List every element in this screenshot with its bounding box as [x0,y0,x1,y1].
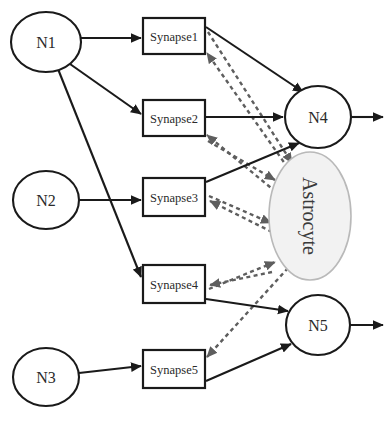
edge-n1-to-synapse4 [58,69,141,277]
network-diagram-canvas: Astrocyte Synapse1 Synapse2 Synapse3 Syn… [0,0,391,423]
synapse-node-synapse1[interactable]: Synapse1 [143,18,205,54]
edge-astrocyte-to-synapse5 [207,268,288,357]
n3-label: N3 [36,369,56,386]
synapse-node-synapse2[interactable]: Synapse2 [143,100,205,136]
neuron-node-n2[interactable]: N2 [13,171,79,229]
n4-label: N4 [308,109,328,126]
edge-synapse3-to-astrocyte [209,196,271,223]
edge-astrocyte-to-synapse3 [210,201,272,232]
edge-astrocyte-to-synapse2 [207,135,276,192]
edge-synapse1-to-astrocyte [208,32,292,163]
n5-label: N5 [308,317,328,334]
astrocyte-label: Astrocyte [298,177,321,255]
neuron-astrocyte-diagram: Astrocyte Synapse1 Synapse2 Synapse3 Syn… [0,0,391,423]
neuron-node-n1[interactable]: N1 [11,12,81,72]
synapse1-label: Synapse1 [150,30,198,44]
neuron-node-n5[interactable]: N5 [286,295,350,355]
n2-label: N2 [36,192,56,209]
astrocyte-node[interactable]: Astrocyte [269,152,351,280]
edge-synapse4-to-astrocyte [209,262,275,289]
neuron-node-n3[interactable]: N3 [13,348,79,406]
synapse5-label: Synapse5 [150,363,198,377]
synapse3-label: Synapse3 [150,191,198,205]
edge-synapse4-to-n5 [206,299,288,311]
synapse-node-synapse3[interactable]: Synapse3 [143,178,205,216]
synapse4-label: Synapse4 [150,278,199,292]
edge-astrocyte-to-synapse4 [210,272,272,285]
synapse2-label: Synapse2 [150,112,198,126]
synapse-node-synapse5[interactable]: Synapse5 [143,350,205,388]
neuron-node-n4[interactable]: N4 [285,86,351,148]
edge-n3-to-synapse5 [79,366,141,373]
edge-synapse1-to-n4 [206,27,303,92]
edge-n1-to-synapse2 [70,64,141,114]
edge-synapse2-to-astrocyte [208,141,275,180]
output-arrows [350,117,383,325]
synapse-node-synapse4[interactable]: Synapse4 [143,265,205,303]
edge-synapse5-to-n5 [206,344,291,381]
n1-label: N1 [36,34,56,51]
edge-astrocyte-to-synapse1 [207,53,288,168]
